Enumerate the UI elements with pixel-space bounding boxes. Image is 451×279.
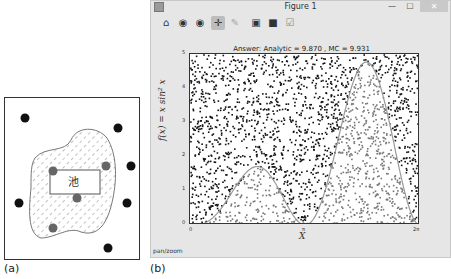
back-icon[interactable]: ◉ bbox=[176, 16, 190, 30]
outside-point bbox=[21, 114, 30, 123]
forward-icon[interactable]: ◉ bbox=[193, 16, 207, 30]
status-text: pan/zoom bbox=[153, 247, 183, 254]
ytick-1: 1 bbox=[182, 185, 185, 191]
inside-point bbox=[49, 224, 58, 233]
outside-point bbox=[104, 244, 113, 253]
panel-a-diagram: 池 bbox=[4, 97, 140, 260]
chart-title: Answer: Analytic = 9.870 , MC = 9.931 bbox=[151, 45, 451, 53]
xtick-2pi: 2π bbox=[413, 226, 419, 232]
inside-point bbox=[73, 194, 82, 203]
ytick-2: 2 bbox=[182, 151, 185, 157]
x-axis-label: X bbox=[299, 231, 305, 241]
zoom-icon[interactable]: ✎ bbox=[228, 16, 242, 30]
inside-point bbox=[49, 167, 58, 176]
xtick-0: 0 bbox=[189, 226, 192, 232]
ytick-0: 0 bbox=[182, 219, 185, 225]
home-icon[interactable]: ⌂ bbox=[159, 16, 173, 30]
maximize-button[interactable]: ☐ bbox=[402, 1, 418, 12]
toolbar: ⌂ ◉ ◉ ✛ ✎ ▣ ■ ☑ bbox=[151, 13, 450, 33]
configure-subplots-icon[interactable]: ▣ bbox=[249, 16, 263, 30]
figure-window: Figure 1 — ☐ ✕ ⌂ ◉ ◉ ✛ ✎ ▣ ■ ☑ Answer: A… bbox=[150, 0, 451, 258]
outside-point bbox=[123, 199, 132, 208]
outside-point bbox=[127, 162, 136, 171]
pan-icon[interactable]: ✛ bbox=[211, 16, 225, 30]
save-icon[interactable]: ■ bbox=[266, 16, 280, 30]
ytick-5: 5 bbox=[182, 49, 185, 55]
inside-point bbox=[102, 162, 111, 171]
plot-area[interactable] bbox=[189, 53, 419, 224]
close-button[interactable]: ✕ bbox=[420, 1, 448, 12]
edit-icon[interactable]: ☑ bbox=[283, 16, 297, 30]
scatter-plot bbox=[190, 54, 419, 224]
title-bar: Figure 1 — ☐ ✕ bbox=[151, 1, 450, 13]
ytick-3: 3 bbox=[182, 117, 185, 123]
minimize-button[interactable]: — bbox=[384, 1, 400, 12]
ytick-4: 4 bbox=[182, 83, 185, 89]
y-axis-label: f(x) = x sin² x bbox=[157, 80, 167, 141]
pond-diagram: 池 bbox=[5, 98, 139, 259]
panel-a-label: (a) bbox=[4, 262, 19, 275]
pond-label: 池 bbox=[68, 176, 79, 189]
outside-point bbox=[15, 199, 24, 208]
outside-point bbox=[114, 124, 123, 133]
panel-b-label: (b) bbox=[150, 262, 166, 275]
